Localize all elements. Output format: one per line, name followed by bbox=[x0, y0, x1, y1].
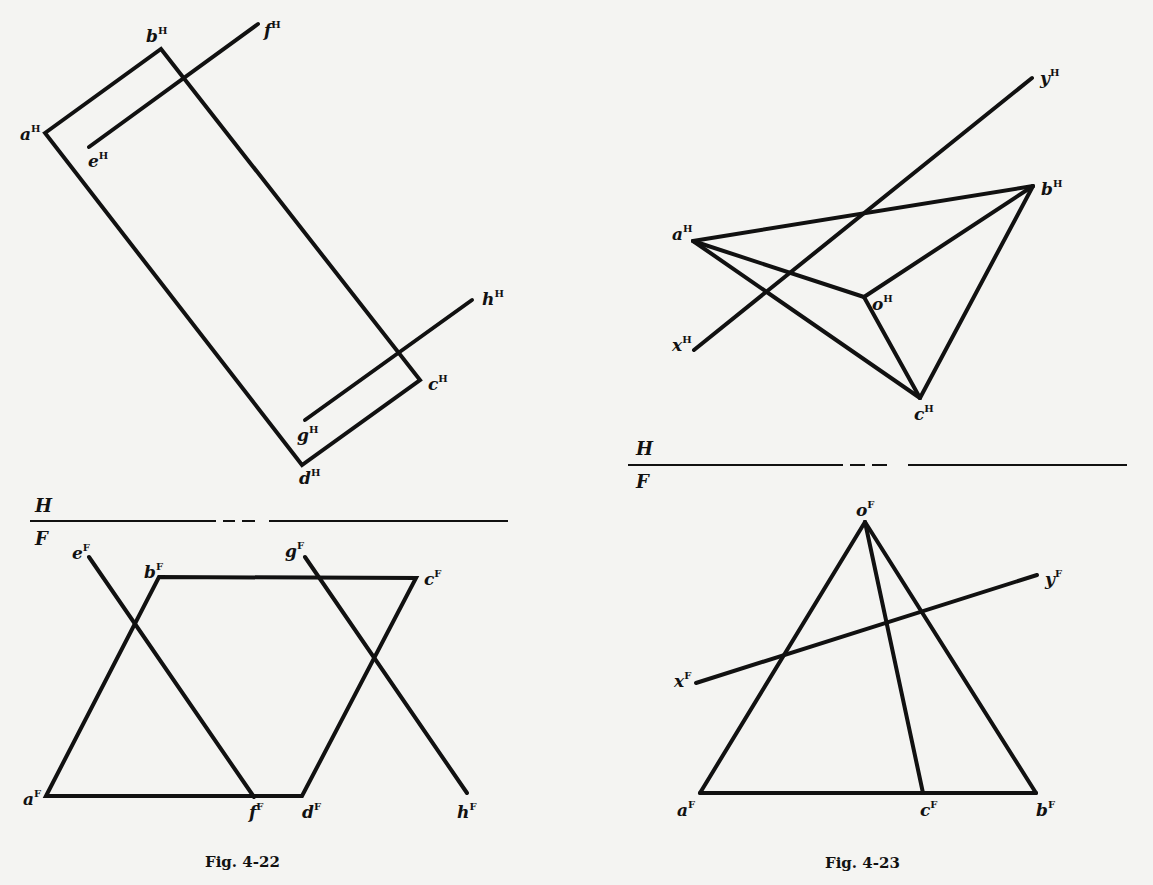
point-label-o-h: oH bbox=[872, 293, 893, 314]
line-xy-f bbox=[696, 575, 1037, 683]
point-label-y-h: yH bbox=[1039, 67, 1059, 88]
point-label-x-f: xF bbox=[673, 670, 691, 691]
point-label-c-h: cH bbox=[914, 403, 934, 424]
fig-4-23-folding-line: H F bbox=[628, 438, 1127, 492]
drawing-canvas: aH bH eH fH cH dH gH hH H F eF bF gF cF bbox=[0, 0, 1153, 885]
point-label-d-f: dF bbox=[302, 801, 321, 822]
point-label-f-f: fF bbox=[248, 801, 263, 822]
point-label-a-f: aF bbox=[677, 799, 695, 820]
rectangle-abcd-h bbox=[45, 49, 420, 465]
edge-bc-h bbox=[920, 186, 1033, 398]
fig-4-22: aH bH eH fH cH dH gH hH H F eF bF gF cF bbox=[20, 19, 508, 871]
point-label-a-f: aF bbox=[23, 788, 41, 809]
edge-ac-h bbox=[693, 241, 920, 398]
point-label-x-h: xH bbox=[671, 334, 692, 355]
point-label-b-h: bH bbox=[1041, 178, 1062, 199]
line-ef-h bbox=[89, 24, 258, 147]
point-label-b-h: bH bbox=[146, 25, 167, 46]
point-label-b-f: bF bbox=[1036, 799, 1055, 820]
point-label-f-h: fH bbox=[263, 19, 281, 40]
point-label-g-f: gF bbox=[285, 540, 304, 561]
line-gh-f bbox=[305, 557, 467, 793]
fig-4-22-horizontal-view: aH bH eH fH cH dH gH hH bbox=[20, 19, 504, 488]
point-label-c-f: cF bbox=[424, 568, 441, 589]
point-label-c-f: cF bbox=[920, 799, 937, 820]
point-label-o-f: oF bbox=[856, 499, 874, 520]
point-label-c-h: cH bbox=[428, 373, 448, 394]
plane-label-f: F bbox=[34, 528, 49, 549]
point-label-a-h: aH bbox=[672, 223, 692, 244]
point-label-a-h: aH bbox=[20, 123, 40, 144]
fig-4-23-frontal-view: oF yF xF aF cF bF bbox=[673, 499, 1062, 820]
point-label-y-f: yF bbox=[1044, 568, 1062, 589]
point-label-h-f: hF bbox=[457, 801, 476, 822]
edge-bo-h bbox=[864, 186, 1033, 297]
edge-oc-f bbox=[865, 522, 923, 793]
edge-bo-f bbox=[865, 522, 1036, 793]
line-ef-f bbox=[89, 557, 254, 797]
point-label-e-h: eH bbox=[88, 150, 108, 171]
edge-ao-h bbox=[693, 241, 864, 297]
edge-ab-h bbox=[693, 186, 1033, 241]
plane-label-f: F bbox=[635, 471, 650, 492]
point-label-d-h: dH bbox=[299, 467, 320, 488]
fig-4-22-folding-line: H F bbox=[30, 495, 508, 549]
plane-label-h: H bbox=[635, 438, 654, 459]
figure-caption: Fig. 4-22 bbox=[205, 853, 280, 871]
point-label-g-h: gH bbox=[297, 424, 318, 445]
fig-4-22-frontal-view: eF bF gF cF aF fF dF hF bbox=[23, 540, 476, 822]
plane-label-h: H bbox=[34, 495, 53, 516]
point-label-h-h: hH bbox=[482, 288, 504, 309]
fig-4-23-horizontal-view: yH bH aH oH xH cH bbox=[671, 67, 1062, 424]
figure-caption: Fig. 4-23 bbox=[825, 854, 900, 872]
fig-4-23: yH bH aH oH xH cH H F oF yF xF aF bbox=[628, 67, 1127, 872]
point-label-e-f: eF bbox=[72, 542, 90, 563]
